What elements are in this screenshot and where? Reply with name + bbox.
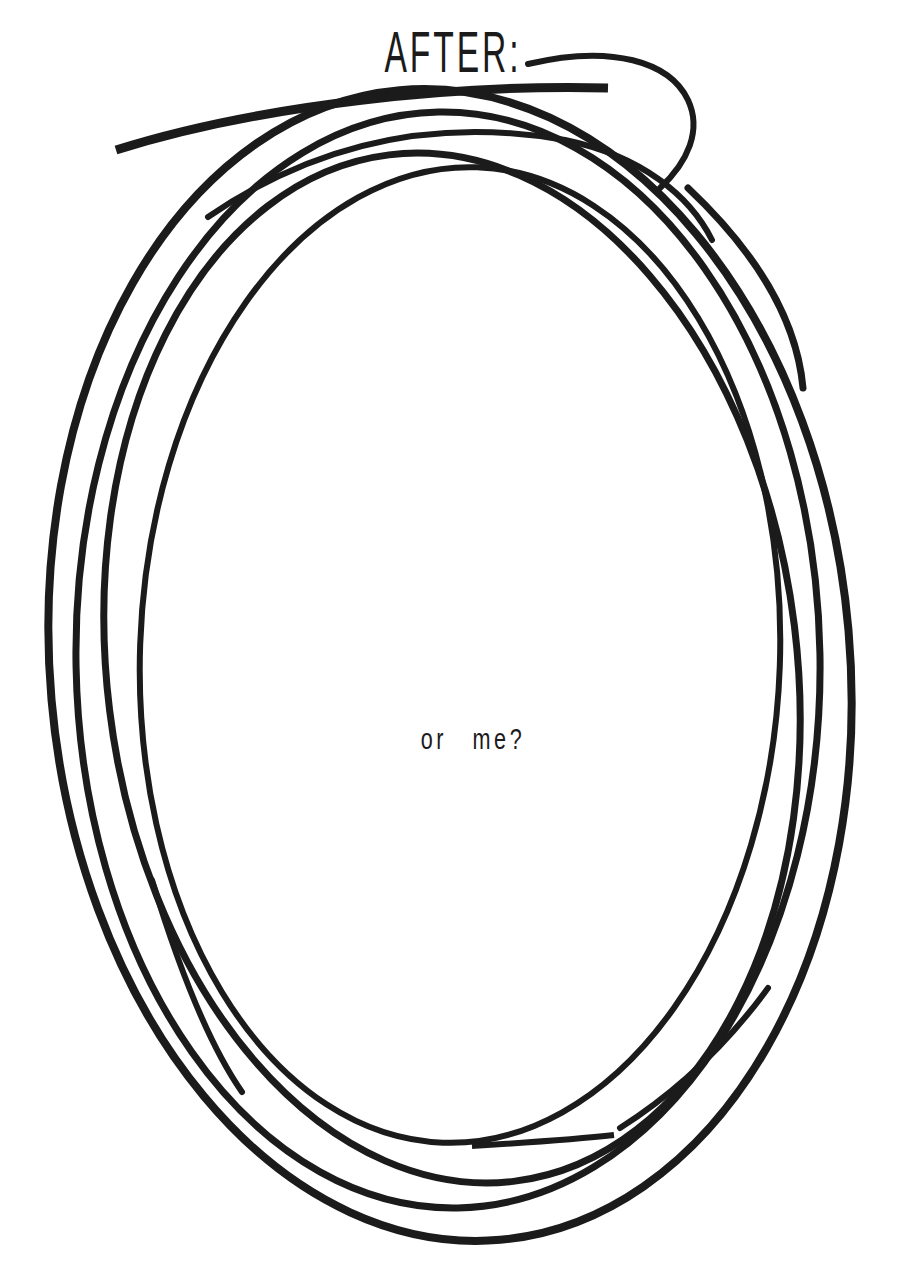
sketch-page: AFTER: or me? xyxy=(0,0,898,1267)
scribble-loop-outer xyxy=(1,55,898,1267)
scribble-tail-top-left-end xyxy=(208,132,712,240)
scribble-oval-drawing xyxy=(0,0,898,1267)
center-caption: or me? xyxy=(421,722,526,756)
scribble-loops xyxy=(1,55,898,1267)
scribble-tail-lower-right-end xyxy=(620,988,768,1128)
scribble-loop-inner xyxy=(123,156,797,1154)
scribble-loop-third xyxy=(47,113,858,1223)
scribble-tail-top-flat xyxy=(116,88,608,150)
